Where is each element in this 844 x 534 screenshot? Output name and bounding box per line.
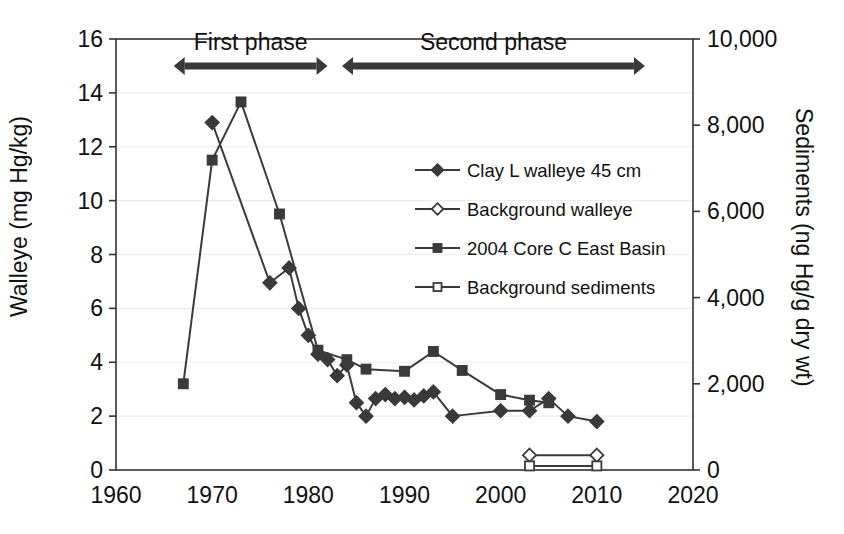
legend-marker [433,244,441,252]
legend-item: Background sediments [415,277,655,298]
legend-marker [432,164,444,176]
data-point-marker [206,116,219,129]
legend-label: Background sediments [467,277,655,298]
data-point-marker [429,347,438,356]
phase-annotations: First phaseSecond phase [174,29,645,75]
legend-marker [432,203,444,215]
data-point-marker [292,302,305,315]
y-tick-label: 4 [90,349,103,375]
data-point-marker [590,415,603,428]
series-background-sediments [525,461,601,470]
x-tick-label: 1970 [187,482,238,508]
phase-label: First phase [194,29,308,55]
data-point-marker [496,390,505,399]
x-tick-label: 2000 [475,482,526,508]
data-point-marker [525,396,534,405]
y-tick-label: 0 [90,457,103,483]
y-tick-label: 16 [77,26,103,52]
x-axis-ticks: 1960197019801990200020102020 [90,482,718,508]
data-point-marker [208,156,217,165]
legend-item: Background walleye [415,199,633,220]
y-axis-left-ticks: 0246810121416 [77,26,116,483]
data-point-marker [523,404,536,417]
data-point-marker [544,398,553,407]
y-tick-label: 14 [77,80,103,106]
chart-legend: Clay L walleye 45 cmBackground walleye20… [415,160,665,298]
chart-figure: Walleye (mg Hg/kg) Sediments (ng Hg/g dr… [0,0,844,534]
data-point-marker [359,410,372,423]
series-background-walleye [523,449,604,462]
y2-tick-label: 6,000 [707,198,765,224]
data-point-marker [361,365,370,374]
y-tick-label: 2 [90,403,103,429]
y2-tick-label: 10,000 [707,26,777,52]
y2-tick-label: 4,000 [707,285,765,311]
y2-tick-label: 8,000 [707,112,765,138]
y2-tick-label: 0 [707,457,720,483]
x-tick-label: 2020 [667,482,718,508]
data-point-marker [350,396,363,409]
legend-marker [433,283,441,291]
data-point-marker [494,404,507,417]
chart-canvas: 0246810121416 02,0004,0006,0008,00010,00… [0,0,844,534]
data-point-marker [525,461,534,470]
phase-arrow-head-right [634,57,645,75]
phase-annotation: First phase [174,29,328,75]
data-point-marker [275,209,284,218]
legend-label: Clay L walleye 45 cm [467,160,641,181]
legend-item: 2004 Core C East Basin [415,238,665,259]
x-tick-label: 1960 [90,482,141,508]
y-axis-right-ticks: 02,0004,0006,0008,00010,000 [693,26,777,483]
data-point-marker [236,97,245,106]
data-point-marker [592,461,601,470]
phase-arrow-head-left [174,57,185,75]
legend-label: Background walleye [467,199,633,220]
y-axis-left-title: Walleye (mg Hg/kg) [6,116,33,317]
phase-arrow-head-right [317,57,328,75]
legend-label: 2004 Core C East Basin [467,238,665,259]
data-point-marker [342,355,351,364]
phase-label: Second phase [420,29,567,55]
y-tick-label: 8 [90,242,103,268]
x-tick-label: 1980 [283,482,334,508]
data-point-marker [400,367,409,376]
phase-arrow-head-left [342,57,353,75]
data-point-marker [590,449,603,462]
y-tick-label: 12 [77,134,103,160]
legend-item: Clay L walleye 45 cm [415,160,641,181]
y-axis-right-title: Sediments (ng Hg/g dry wt) [790,108,817,387]
y-tick-label: 6 [90,295,103,321]
data-point-marker [179,379,188,388]
y2-tick-label: 2,000 [707,371,765,397]
data-point-marker [458,366,467,375]
x-tick-label: 2010 [571,482,622,508]
phase-annotation: Second phase [342,29,645,75]
x-tick-label: 1990 [379,482,430,508]
y-tick-label: 10 [77,188,103,214]
data-point-marker [313,346,322,355]
data-point-marker [523,449,536,462]
